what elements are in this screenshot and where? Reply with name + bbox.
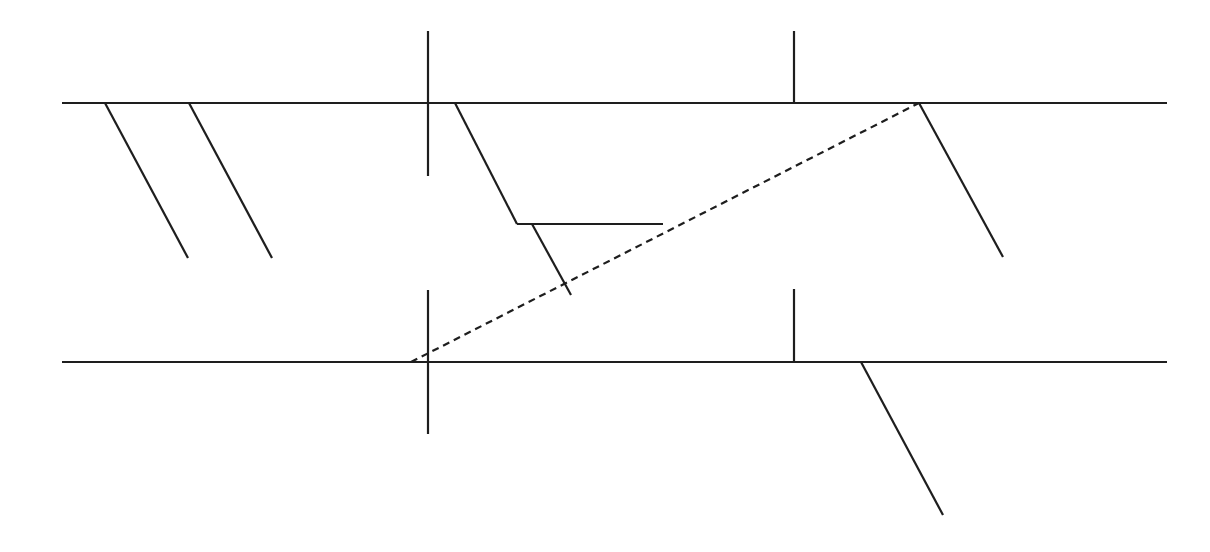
line-diagram-canvas xyxy=(0,0,1210,552)
diag-right-upper xyxy=(919,103,1003,257)
diag-right-lower xyxy=(861,362,943,515)
diag-mid xyxy=(455,103,517,224)
solid-lines-group xyxy=(62,31,1167,515)
diag-left-1 xyxy=(105,103,188,258)
diag-left-2 xyxy=(189,103,272,258)
dashed-connector xyxy=(411,103,919,362)
dashed-lines-group xyxy=(411,103,919,362)
